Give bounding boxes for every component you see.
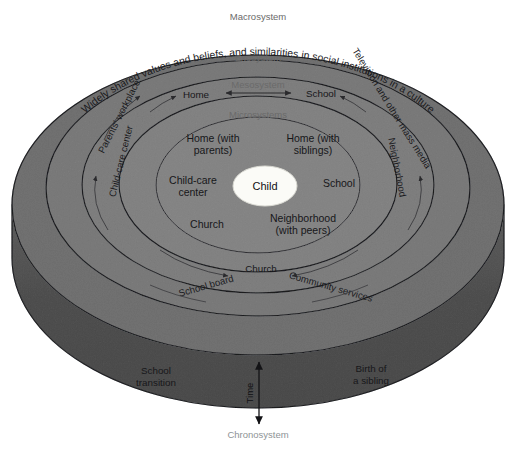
meso-school-label: School (306, 88, 336, 99)
micro-home-siblings-line1: Home (with (286, 132, 339, 144)
chrono-right-event: Birth of a sibling (353, 363, 389, 386)
label-microsystems: Microsystems (229, 109, 287, 120)
label-macrosystem: Macrosystem (230, 11, 287, 22)
micro-home-siblings-line2: siblings) (294, 144, 333, 156)
micro-home-parents-line1: Home (with (186, 132, 239, 144)
microsystem-node-church: Church (190, 218, 224, 230)
microsystem-node-home-parents: Home (with parents) (186, 132, 239, 156)
meso-church-label: Church (245, 263, 277, 274)
micro-neighborhood-line2: (with peers) (276, 224, 331, 236)
micro-child-care-line2: center (178, 186, 208, 198)
microsystem-node-neighborhood-peers: Neighborhood (with peers) (270, 212, 336, 236)
microsystem-node-home-siblings: Home (with siblings) (286, 132, 339, 156)
chrono-left-line2: transition (136, 377, 176, 388)
ecological-systems-svg: Macrosystem Exosystem Mesosystem Microsy… (0, 0, 516, 463)
micro-home-parents-line2: parents) (194, 144, 233, 156)
micro-school-line1: School (323, 177, 355, 189)
micro-child-care-line1: Child-care (169, 174, 217, 186)
meso-home-label: Home (183, 89, 210, 100)
chrono-right-line1: Birth of (355, 363, 386, 374)
chrono-left-event: School transition (136, 365, 176, 388)
micro-neighborhood-line1: Neighborhood (270, 212, 336, 224)
diagram-canvas: Macrosystem Exosystem Mesosystem Microsy… (0, 0, 516, 463)
time-axis-label: Time (244, 383, 255, 404)
micro-church-line1: Church (190, 218, 224, 230)
child-label: Child (252, 180, 277, 192)
label-chronosystem: Chronosystem (227, 429, 288, 440)
time-label-group: Time (244, 383, 255, 404)
chrono-left-line1: School (141, 365, 171, 376)
label-mesosystem: Mesosystem (231, 79, 284, 90)
chrono-right-line2: a sibling (353, 375, 389, 386)
microsystem-node-school: School (323, 177, 355, 189)
